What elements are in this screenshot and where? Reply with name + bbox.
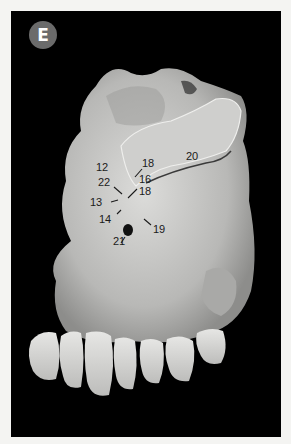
label-12: 12 [96, 162, 108, 173]
label-18: 18 [139, 186, 151, 197]
figure-panel: E 12 22 13 14 18 16 18 19 21 20 [11, 11, 281, 437]
label-13: 13 [90, 197, 102, 208]
panel-label-badge: E [29, 21, 57, 49]
label-21: 21 [113, 236, 125, 247]
label-14: 14 [99, 214, 111, 225]
label-20: 20 [186, 151, 198, 162]
label-17: 18 [142, 158, 154, 169]
label-16: 16 [139, 174, 151, 185]
label-19: 19 [153, 224, 165, 235]
label-22: 22 [98, 177, 110, 188]
maxilla-photo [11, 11, 281, 437]
